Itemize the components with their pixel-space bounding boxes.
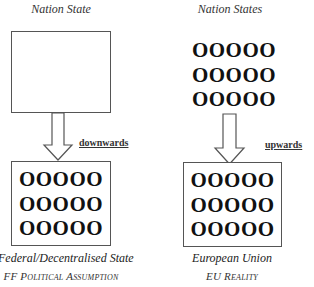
european-union-label: European Union: [180, 251, 284, 266]
european-union-box: OOOOO OOOOO OOOOO: [183, 162, 282, 247]
member-row: OOOOO: [190, 219, 274, 240]
upwards-label: upwards: [265, 139, 302, 150]
member-row: OOOOO: [190, 170, 274, 191]
eu-reality-caption: EU Reality: [180, 270, 284, 282]
member-row: OOOOO: [190, 195, 274, 216]
